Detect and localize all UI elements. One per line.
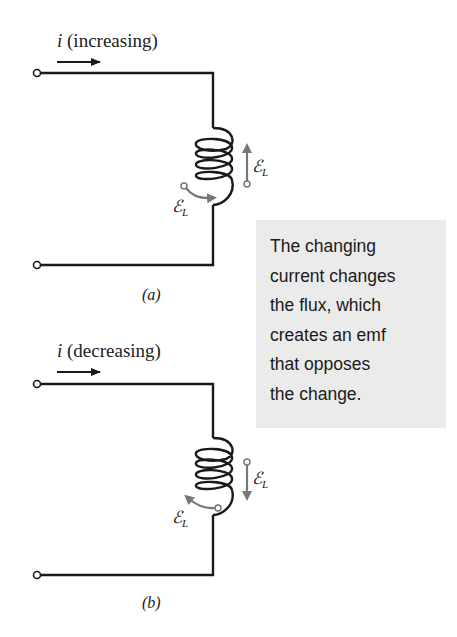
caption-a: (a): [142, 286, 161, 304]
circuit-b: [34, 372, 251, 579]
emf-label-right-b: ℰL: [252, 468, 268, 490]
current-state: (increasing): [67, 30, 158, 51]
circuit-a: [34, 62, 251, 269]
emf-label-left-b: ℰL: [172, 507, 188, 529]
callout-line: that opposes: [270, 350, 446, 380]
callout-line: creates an emf: [270, 321, 446, 351]
emf-label-right-a: ℰL: [252, 156, 268, 178]
terminal-bottom-b: [34, 572, 41, 579]
current-symbol: i: [57, 340, 62, 361]
inductor-coil-a: [196, 128, 233, 205]
caption-b: (b): [142, 594, 161, 612]
emf-arrow-coil-a: [186, 188, 212, 198]
explanation-callout: The changing current changes the flux, w…: [256, 220, 446, 428]
current-label-b: i (decreasing): [57, 340, 161, 362]
inductor-emf-diagram: i (increasing) ℰL ℰL (a) i (decreasing) …: [0, 0, 457, 637]
emf-arrow-coil-b: [188, 498, 215, 508]
terminal-bottom-a: [34, 262, 41, 269]
current-label-a: i (increasing): [57, 30, 158, 52]
current-symbol: i: [57, 30, 62, 51]
emf-label-left-a: ℰL: [172, 196, 188, 218]
callout-line: current changes: [270, 262, 446, 292]
current-state: (decreasing): [67, 340, 161, 361]
terminal-top-b: [34, 381, 41, 388]
inductor-coil-b: [196, 438, 233, 515]
callout-line: the flux, which: [270, 291, 446, 321]
callout-line: The changing: [270, 232, 446, 262]
terminal-top-a: [34, 70, 41, 77]
callout-line: the change.: [270, 380, 446, 410]
